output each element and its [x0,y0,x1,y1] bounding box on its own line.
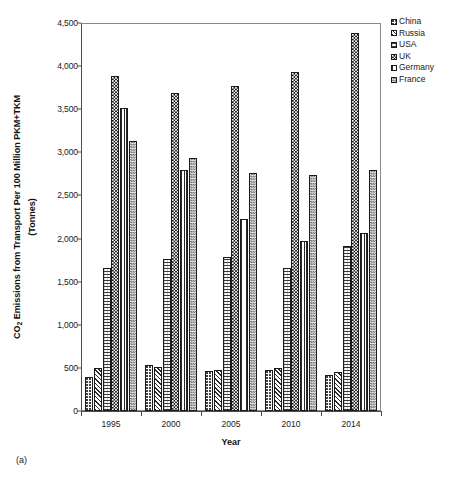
legend-item-russia: Russia [391,28,434,40]
bar-uk-2005 [231,86,239,411]
y-axis-title-box: CO2 Emissions from Transport Per 100 Mil… [30,23,31,411]
bar-france-2014 [369,170,377,411]
bar-uk-2000 [171,93,179,411]
figure-panel-a: CO2 Emissions from Transport Per 100 Mil… [0,0,452,480]
legend-label-usa: USA [399,39,416,51]
bars-layer [81,23,381,411]
scan-artifact [0,0,452,7]
x-tick-label-1995: 1995 [102,419,121,429]
bar-uk-2010 [291,72,299,411]
x-tick-mark [141,411,142,416]
bar-france-1995 [129,141,137,411]
legend-item-france: France [391,74,434,86]
bar-china-2005 [205,371,213,411]
bar-germany-2005 [240,219,248,411]
bar-france-2005 [249,173,257,411]
bar-usa-1995 [103,268,111,411]
x-tick-label-2005: 2005 [222,419,241,429]
legend-label-germany: Germany [399,62,434,74]
legend-label-china: China [399,16,421,28]
y-axis-title-line1: CO2 Emissions from Transport Per 100 Mil… [12,95,22,339]
bar-france-2010 [309,175,317,411]
bar-russia-2000 [154,367,162,411]
bar-uk-2014 [351,33,359,412]
y-tick-label: 2,000 [57,234,78,244]
y-tick-label: 3,500 [57,104,78,114]
bar-usa-2000 [163,259,171,411]
y-tick-label: 4,500 [57,18,78,28]
y-tick-label: 3,000 [57,147,78,157]
legend-label-uk: UK [399,51,411,63]
legend-item-germany: Germany [391,62,434,74]
bar-usa-2014 [343,246,351,411]
y-tick-label: 1,500 [57,277,78,287]
x-tick-label-2010: 2010 [282,419,301,429]
x-tick-label-2000: 2000 [162,419,181,429]
bar-china-2010 [265,370,273,411]
bar-china-2014 [325,375,333,411]
bar-france-2000 [189,158,197,411]
y-axis-title-line2: (Tonnes) [26,95,38,339]
legend-item-usa: USA [391,39,434,51]
legend-swatch-russia-icon [391,30,397,36]
y-tick-label: 500 [64,363,78,373]
legend-label-france: France [399,74,425,86]
bar-russia-2014 [334,372,342,411]
legend-swatch-france-icon [391,77,397,83]
bar-germany-2014 [360,233,368,411]
x-tick-mark [201,411,202,416]
y-tick-label: 1,000 [57,320,78,330]
y-axis-title: CO2 Emissions from Transport Per 100 Mil… [11,95,38,339]
bar-usa-2010 [283,268,291,411]
x-axis-title: Year [221,437,240,447]
legend-swatch-uk-icon [391,54,397,60]
x-tick-mark [261,411,262,416]
bar-russia-2005 [214,370,222,411]
bar-russia-2010 [274,368,282,411]
bar-germany-1995 [120,108,128,411]
legend-swatch-usa-icon [391,42,397,48]
bar-china-1995 [85,377,93,411]
bar-germany-2010 [300,241,308,411]
legend-swatch-china-icon [391,19,397,25]
bar-germany-2000 [180,170,188,411]
figure-caption: (a) [16,455,27,465]
x-tick-mark [381,411,382,416]
legend-item-uk: UK [391,51,434,63]
x-tick-label-2014: 2014 [342,419,361,429]
x-axis-line [81,411,382,412]
legend: ChinaRussiaUSAUKGermanyFrance [391,16,434,86]
legend-swatch-germany-icon [391,65,397,71]
x-tick-mark [321,411,322,416]
y-tick-label: 2,500 [57,190,78,200]
bar-uk-1995 [111,76,119,411]
bar-russia-1995 [94,368,102,411]
bar-usa-2005 [223,257,231,411]
bar-china-2000 [145,365,153,411]
legend-label-russia: Russia [399,28,425,40]
x-tick-mark [81,411,82,416]
legend-item-china: China [391,16,434,28]
y-tick-label: 4,000 [57,61,78,71]
